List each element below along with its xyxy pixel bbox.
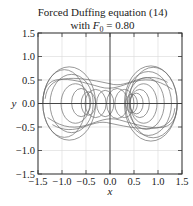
x-tick-label: −0.5	[76, 176, 95, 187]
y-tick-label: 1.5	[22, 28, 35, 39]
x-tick-label: 1.5	[175, 176, 188, 187]
x-tick-label: −1.0	[52, 176, 71, 187]
y-tick-label: −0.5	[16, 122, 35, 133]
y-axis-label: y	[11, 97, 17, 109]
y-tick-label: −1.0	[16, 145, 35, 156]
phase-plot: −1.5−1.0−0.50.00.51.01.5−1.5−1.0−0.50.00…	[0, 0, 193, 206]
x-tick-label: 0.5	[127, 176, 140, 187]
y-tick-label: 0.0	[22, 98, 35, 109]
y-tick-label: −1.5	[16, 169, 35, 180]
x-tick-label: 1.0	[151, 176, 164, 187]
y-tick-label: 0.5	[22, 75, 35, 86]
x-axis-label: x	[107, 185, 113, 197]
y-tick-label: 1.0	[22, 51, 35, 62]
